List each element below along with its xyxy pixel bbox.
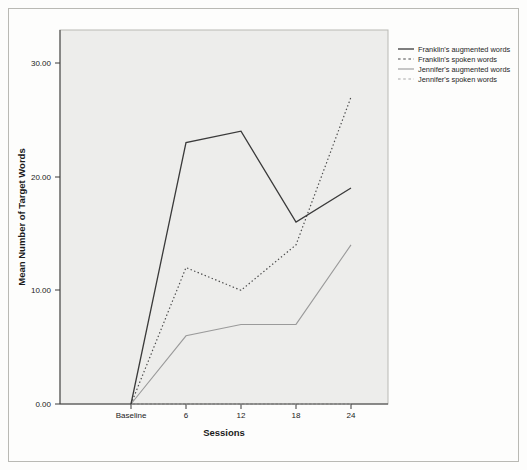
x-tick-label-baseline: Baseline — [116, 411, 147, 420]
figure-container: 0.00 10.00 20.00 30.00 Baseline 6 12 18 … — [0, 0, 527, 470]
y-tick-label-10: 10.00 — [31, 286, 52, 295]
y-tick-label-20: 20.00 — [31, 173, 52, 182]
x-axis-ticks: Baseline 6 12 18 24 — [116, 404, 356, 420]
chart-legend: Franklin's augmented words Franklin's sp… — [398, 45, 511, 84]
line-chart: 0.00 10.00 20.00 30.00 Baseline 6 12 18 … — [0, 0, 527, 470]
x-tick-label-18: 18 — [292, 411, 301, 420]
y-tick-label-30: 30.00 — [31, 59, 52, 68]
legend-label-franklins-augmented-words: Franklin's augmented words — [418, 45, 511, 54]
x-tick-label-24: 24 — [347, 411, 356, 420]
x-axis-title: Sessions — [203, 427, 245, 438]
x-tick-label-12: 12 — [237, 411, 246, 420]
legend-label-franklins-spoken-words: Franklin's spoken words — [418, 55, 497, 64]
y-axis-ticks: 0.00 10.00 20.00 30.00 — [31, 59, 60, 409]
y-tick-label-0: 0.00 — [35, 400, 51, 409]
legend-label-jennifers-spoken-words: Jennifer's spoken words — [418, 75, 497, 84]
x-tick-label-6: 6 — [184, 411, 189, 420]
legend-label-jennifers-augmented-words: Jennifer's augmented words — [418, 65, 511, 74]
plot-area-background — [60, 30, 388, 404]
y-axis-title: Mean Number of Target Words — [16, 148, 27, 285]
